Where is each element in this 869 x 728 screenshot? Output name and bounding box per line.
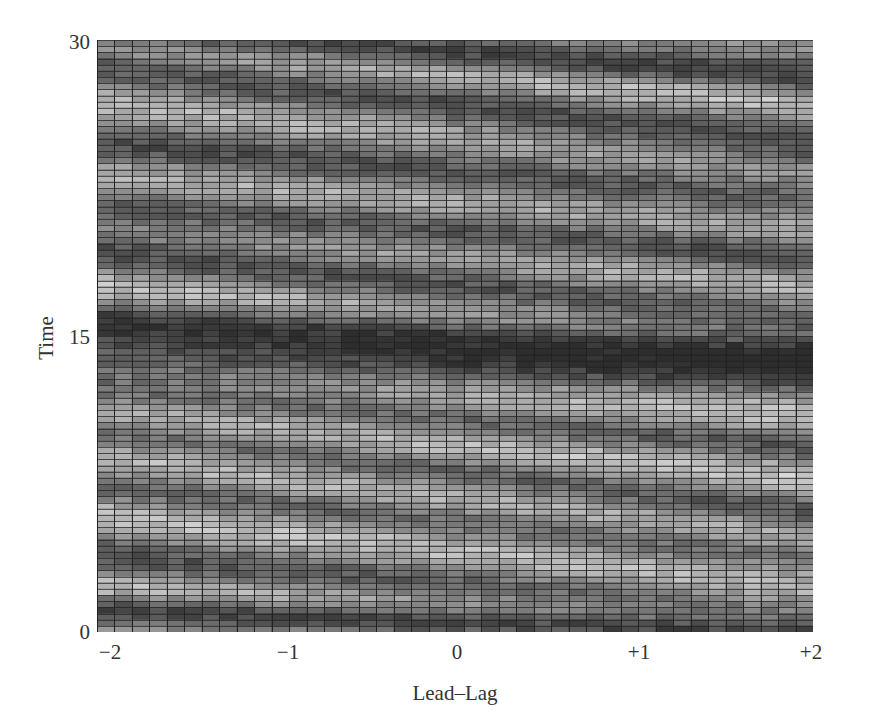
x-axis-label: Lead–Lag [355, 681, 555, 706]
y-axis-label: Time [34, 298, 59, 378]
y-tick-30: 30 [50, 30, 90, 55]
heatmap-plot-area [97, 40, 813, 632]
x-tick-plus-2: +2 [781, 640, 841, 665]
x-tick-minus-1: −1 [258, 640, 318, 665]
x-tick-minus-2: −2 [80, 640, 140, 665]
x-tick-plus-1: +1 [609, 640, 669, 665]
x-tick-0: 0 [427, 640, 487, 665]
heatmap-cells [97, 40, 813, 632]
